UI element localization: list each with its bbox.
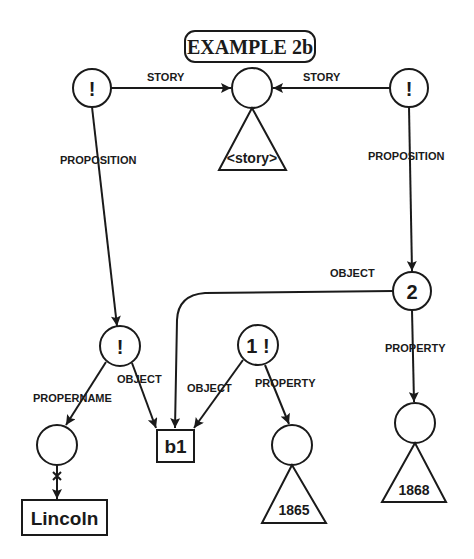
label-propername: PROPERNAME — [33, 392, 112, 404]
edge-property-two — [412, 310, 414, 402]
svg-text:<story>: <story> — [227, 150, 278, 166]
label-story-left: STORY — [147, 71, 185, 83]
edge-proposition-left — [92, 107, 117, 326]
node-story: <story> — [219, 68, 286, 170]
label-property-two: PROPERTY — [385, 342, 446, 354]
title-text: EXAMPLE 2b — [187, 36, 313, 58]
node-two: 2 — [393, 272, 431, 310]
node-top-right: ! — [390, 69, 428, 107]
node-top-left: ! — [73, 69, 111, 107]
node-one-bang: 1 ! — [238, 325, 278, 365]
label-story-right: STORY — [303, 71, 341, 83]
node-name — [37, 425, 77, 465]
svg-text:b1: b1 — [164, 436, 187, 457]
node-lincoln: Lincoln — [22, 500, 107, 535]
node-b1: b1 — [157, 430, 194, 462]
node-1865: 1865 — [262, 425, 326, 523]
label-object-one: OBJECT — [187, 382, 232, 394]
svg-text:1 !: 1 ! — [246, 335, 269, 357]
svg-text:Lincoln: Lincoln — [31, 508, 99, 529]
label-proposition-left: PROPOSITION — [60, 154, 136, 166]
label-property-one: PROPERTY — [255, 377, 316, 389]
svg-text:!: ! — [406, 78, 413, 100]
title-box: EXAMPLE 2b — [185, 31, 315, 62]
svg-text:!: ! — [117, 336, 124, 358]
node-1868: 1868 — [382, 403, 446, 502]
svg-text:2: 2 — [406, 281, 417, 303]
svg-text:1868: 1868 — [398, 482, 429, 498]
edge-object-one — [194, 360, 243, 428]
label-proposition-right: PROPOSITION — [368, 150, 444, 162]
edge-property-one — [265, 365, 289, 424]
label-object-left: OBJECT — [117, 373, 162, 385]
semantic-network-diagram: EXAMPLE 2b STORY STORY PROPOSITION PROPO… — [0, 0, 474, 559]
edge-proposition-right — [409, 107, 412, 271]
svg-text:!: ! — [89, 78, 96, 100]
node-mid-left: ! — [100, 326, 140, 366]
label-object-two: OBJECT — [330, 267, 375, 279]
svg-text:1865: 1865 — [278, 502, 309, 518]
